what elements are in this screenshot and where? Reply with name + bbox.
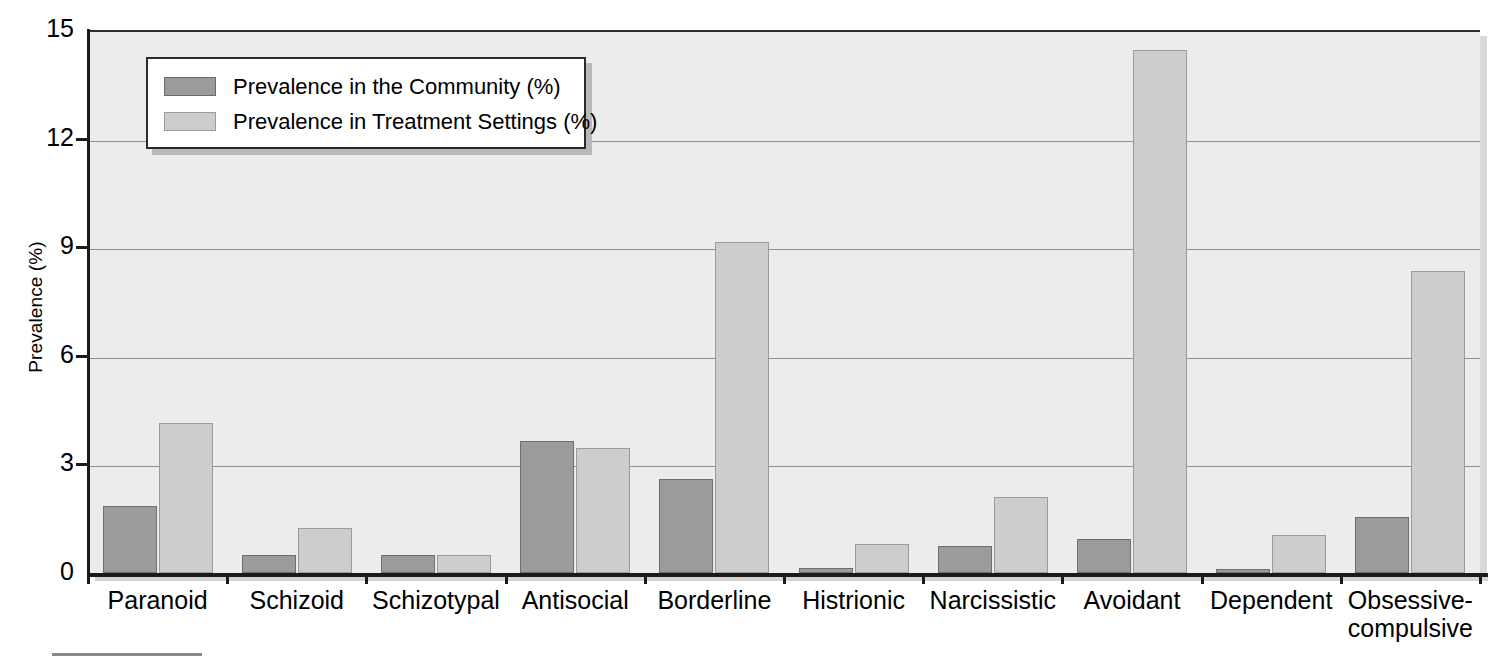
chart-legend: Prevalence in the Community (%) Prevalen… bbox=[146, 57, 586, 149]
legend-item[interactable]: Prevalence in Treatment Settings (%) bbox=[164, 104, 584, 139]
legend-label-community: Prevalence in the Community (%) bbox=[233, 76, 561, 98]
y-axis-tick-mark bbox=[76, 246, 89, 249]
bar-community[interactable] bbox=[381, 555, 435, 573]
legend-swatch-community-icon bbox=[164, 77, 216, 96]
x-axis-tick-mark bbox=[783, 573, 786, 584]
bar-community[interactable] bbox=[659, 479, 713, 573]
bar-treatment[interactable] bbox=[437, 555, 491, 573]
y-axis-tick-labels: 03691215 bbox=[12, 0, 74, 662]
legend-item[interactable]: Prevalence in the Community (%) bbox=[164, 69, 584, 104]
x-axis-tick-label: Avoidant bbox=[1062, 586, 1201, 614]
bar-treatment[interactable] bbox=[1411, 271, 1465, 573]
bar-community[interactable] bbox=[1355, 517, 1409, 573]
x-axis-tick-mark bbox=[505, 573, 508, 584]
bar-community[interactable] bbox=[1077, 539, 1131, 573]
legend-label-treatment: Prevalence in Treatment Settings (%) bbox=[233, 111, 597, 133]
x-axis-tick-mark bbox=[1340, 573, 1343, 584]
bar-community[interactable] bbox=[938, 546, 992, 573]
y-axis-tick-label: 9 bbox=[18, 233, 74, 258]
x-axis-tick-label: Obsessive- compulsive bbox=[1341, 586, 1480, 642]
gridline bbox=[88, 249, 1480, 250]
bar-treatment[interactable] bbox=[576, 448, 630, 573]
x-axis-tick-mark bbox=[87, 573, 90, 584]
x-axis-tick-label: Paranoid bbox=[88, 586, 227, 614]
gridline bbox=[88, 466, 1480, 467]
x-axis-baseline bbox=[88, 573, 1488, 577]
bar-community[interactable] bbox=[520, 441, 574, 573]
y-axis-spine bbox=[87, 29, 90, 575]
bar-treatment[interactable] bbox=[855, 544, 909, 573]
x-axis-tick-mark bbox=[1061, 573, 1064, 584]
bar-chart-figure: Prevalence (%) 03691215 Prevalence in th… bbox=[0, 0, 1488, 662]
y-axis-tick-label: 0 bbox=[18, 559, 74, 584]
x-axis-tick-label: Schizoid bbox=[227, 586, 366, 614]
x-axis-baseline-shadow bbox=[95, 577, 1488, 581]
x-axis-tick-label: Borderline bbox=[645, 586, 784, 614]
x-axis-tick-mark bbox=[922, 573, 925, 584]
gridline bbox=[88, 358, 1480, 359]
bar-treatment[interactable] bbox=[159, 423, 213, 573]
x-axis-tick-label: Narcissistic bbox=[923, 586, 1062, 614]
x-axis-tick-mark bbox=[1201, 573, 1204, 584]
x-axis-tick-label: Antisocial bbox=[506, 586, 645, 614]
x-axis-tick-mark bbox=[644, 573, 647, 584]
y-axis-tick-label: 15 bbox=[18, 16, 74, 41]
legend-swatch-treatment-icon bbox=[164, 112, 216, 131]
x-axis-tick-label: Histrionic bbox=[784, 586, 923, 614]
bar-treatment[interactable] bbox=[1133, 50, 1187, 573]
bar-treatment[interactable] bbox=[994, 497, 1048, 573]
bar-community[interactable] bbox=[242, 555, 296, 573]
x-axis-tick-mark bbox=[1479, 573, 1482, 584]
x-axis-tick-label: Dependent bbox=[1202, 586, 1341, 614]
bar-treatment[interactable] bbox=[1272, 535, 1326, 573]
x-axis-tick-label: Schizotypal bbox=[366, 586, 505, 614]
bar-treatment[interactable] bbox=[715, 242, 769, 573]
bar-treatment[interactable] bbox=[298, 528, 352, 573]
y-axis-tick-label: 6 bbox=[18, 342, 74, 367]
x-axis-tick-mark bbox=[365, 573, 368, 584]
x-axis-tick-mark bbox=[226, 573, 229, 584]
y-axis-tick-label: 12 bbox=[18, 125, 74, 150]
footer-rule bbox=[52, 653, 202, 656]
bar-community[interactable] bbox=[103, 506, 157, 573]
y-axis-tick-label: 3 bbox=[18, 450, 74, 475]
y-axis-tick-mark bbox=[76, 463, 89, 466]
y-axis-tick-mark bbox=[76, 138, 89, 141]
y-axis-tick-mark bbox=[76, 355, 89, 358]
